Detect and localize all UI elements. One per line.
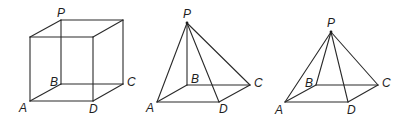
pyramid-c-label-D: D xyxy=(347,103,356,117)
pyramid-c-label-B: B xyxy=(305,76,313,90)
pyramid-c-label-C: C xyxy=(382,76,391,90)
cube-edge-DC xyxy=(93,84,123,101)
cube-figure: P B C A D xyxy=(18,6,136,116)
cube-label-A: A xyxy=(18,101,27,115)
pyramid-b-label-D: D xyxy=(219,102,228,116)
pyramid-edge-PC xyxy=(331,32,378,85)
pyramid-central-figure: P B C A D xyxy=(274,16,391,117)
geometry-figures: P B C A D P B C A D xyxy=(0,0,408,121)
cube-label-B: B xyxy=(50,75,58,89)
pyramid-b-label-C: C xyxy=(254,76,263,90)
pyramid-b-label-P: P xyxy=(183,7,191,21)
pyramid-edge-AB xyxy=(157,85,187,102)
cube-label-D: D xyxy=(89,102,98,116)
pyramid-edge-PD xyxy=(187,23,219,102)
pyramid-edge-PB xyxy=(316,32,331,85)
apex-point xyxy=(330,31,333,34)
pyramid-edge-PA xyxy=(157,23,187,102)
pyramid-edge-PD xyxy=(331,32,348,102)
apex-point xyxy=(186,22,189,25)
pyramid-edge-PA xyxy=(285,32,331,102)
pyramid-b-figure: P B C A D xyxy=(145,7,263,116)
pyramid-edge-DC xyxy=(219,85,250,102)
pyramid-c-label-P: P xyxy=(327,16,335,30)
cube-edge xyxy=(93,20,123,37)
pyramid-b-label-A: A xyxy=(145,101,154,115)
cube-label-P: P xyxy=(57,6,65,20)
cube-edge xyxy=(30,20,61,37)
cube-label-C: C xyxy=(127,75,136,89)
pyramid-edge-DC xyxy=(348,85,378,102)
pyramid-c-label-A: A xyxy=(274,103,283,117)
pyramid-b-label-B: B xyxy=(191,72,199,86)
